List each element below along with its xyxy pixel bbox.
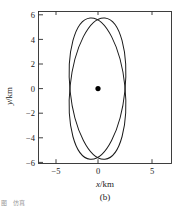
- y-axis-ticks: [39, 15, 44, 163]
- y-axis-tick-labels: 6 4 2 0 −2 −4 −6: [26, 10, 36, 168]
- x-tick-label: 0: [96, 166, 100, 176]
- x-axis-label-unit: /km: [100, 179, 114, 189]
- figure-caption: (b): [100, 192, 111, 202]
- y-tick-label: −6: [26, 158, 35, 168]
- y-tick-label: 2: [31, 59, 35, 69]
- plot-frame: [39, 12, 172, 164]
- y-tick-label: −4: [26, 133, 36, 143]
- y-tick-label: −2: [26, 108, 35, 118]
- y-tick-label: 6: [31, 10, 35, 20]
- origin-marker: [95, 86, 100, 91]
- y-axis-label: y/km: [4, 87, 14, 106]
- page-text-fragment: 图 仿真: [1, 199, 25, 206]
- x-axis-tick-labels: −5 0 5: [51, 166, 154, 176]
- y-tick-label: 0: [31, 84, 35, 94]
- x-tick-label: 5: [150, 166, 154, 176]
- y-axis-label-unit: /km: [4, 87, 14, 101]
- x-axis-label: x/km: [95, 179, 114, 189]
- y-tick-label: 4: [31, 35, 36, 45]
- x-tick-label: −5: [51, 166, 60, 176]
- relative-motion-orbit-figure: 6 4 2 0 −2 −4 −6 −5 0 5 y/km x/km (b) 图 …: [0, 0, 182, 206]
